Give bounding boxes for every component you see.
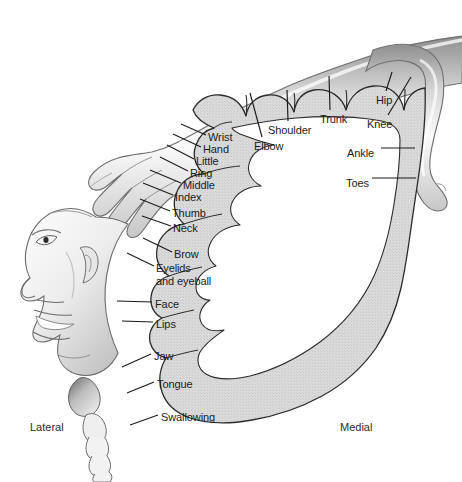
label-face: Face <box>155 298 179 310</box>
leader-line-jaw <box>122 354 151 367</box>
label-toes: Toes <box>346 177 369 189</box>
tongue-larynx-illustration <box>69 378 112 482</box>
label-knee: Knee <box>367 118 392 130</box>
label-middle: Middle <box>183 179 215 191</box>
head-profile-illustration <box>21 209 128 376</box>
label-brow: Brow <box>174 248 199 260</box>
label-index: Index <box>175 191 201 203</box>
label-thumb: Thumb <box>172 207 206 219</box>
leader-line-face <box>117 301 152 302</box>
label-lips: Lips <box>156 318 176 330</box>
label-ring: Ring <box>190 167 212 179</box>
label-wrist: Wrist <box>208 131 232 143</box>
orientation-label-lateral: Lateral <box>30 421 64 433</box>
label-neck: Neck <box>173 222 198 234</box>
label-trunk: Trunk <box>320 113 347 125</box>
leader-line-swallowing <box>130 415 158 425</box>
leader-line-tongue <box>127 382 154 393</box>
leader-line-lips <box>122 321 153 322</box>
sensory-homunculus-figure: WristHandLittleRingMiddleIndexThumbNeckB… <box>0 0 462 482</box>
leader-line-eyelids-and-eyeball <box>127 253 154 266</box>
label-hip: Hip <box>376 94 392 106</box>
label-elbow: Elbow <box>254 140 283 152</box>
homunculus-artwork <box>0 0 462 482</box>
label-ankle: Ankle <box>347 147 374 159</box>
label-hand: Hand <box>203 143 229 155</box>
label-jaw: Jaw <box>154 350 173 362</box>
label-tongue: Tongue <box>157 378 193 390</box>
label-shoulder: Shoulder <box>268 124 311 136</box>
label-swallowing: Swallowing <box>161 411 215 423</box>
label-eyelids-and-eyeball: Eyelids and eyeball <box>156 262 211 287</box>
label-little: Little <box>196 155 219 167</box>
orientation-label-medial: Medial <box>340 421 372 433</box>
